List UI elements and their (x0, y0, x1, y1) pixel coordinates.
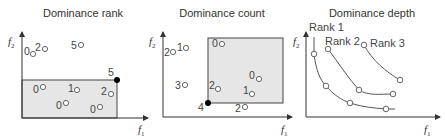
y-axis-label: f2 (8, 35, 15, 50)
svg-text:0: 0 (90, 103, 96, 115)
x-axis-label: f1 (424, 123, 431, 138)
svg-text:0: 0 (24, 45, 30, 57)
front-label: Rank 3 (370, 37, 405, 49)
svg-text:2: 2 (235, 102, 241, 114)
svg-text:5: 5 (71, 39, 77, 51)
front-label: Rank 2 (325, 35, 360, 47)
panel-title: Dominance depth (329, 7, 415, 19)
figure: Dominance rank f2 f1 0 2 5 0 1 2 (0, 0, 445, 139)
svg-text:1: 1 (243, 84, 249, 96)
svg-text:2: 2 (164, 46, 170, 58)
y-axis-label: f2 (293, 35, 300, 50)
solution-point: 1 (177, 41, 189, 53)
panel-title: Dominance rank (43, 7, 124, 19)
solution-point: 3 (175, 79, 188, 91)
svg-text:5: 5 (108, 66, 114, 78)
highlighted-solution: 4 (198, 100, 211, 113)
svg-text:1: 1 (177, 41, 183, 53)
svg-text:0: 0 (56, 99, 62, 111)
x-axis-label: f1 (138, 123, 145, 138)
solution-point: 2 (235, 102, 248, 114)
solution-point: 0 (24, 45, 36, 57)
svg-text:2: 2 (35, 41, 41, 53)
svg-text:1: 1 (68, 82, 74, 94)
svg-text:2: 2 (101, 85, 107, 97)
svg-text:0: 0 (249, 69, 255, 81)
panel-dominance-rank: Dominance rank f2 f1 0 2 5 0 1 2 (8, 7, 148, 138)
svg-text:3: 3 (175, 79, 181, 91)
solution-point: 5 (71, 39, 84, 51)
solution-point: 2 (164, 46, 176, 58)
panel-dominance-count: Dominance count f2 f1 2 1 0 3 2 0 (149, 7, 292, 138)
panel-dominance-depth: Dominance depth f2 f1 Rank 1 Rank 2 (293, 7, 440, 138)
y-axis-label: f2 (149, 35, 156, 50)
svg-text:0: 0 (33, 83, 39, 95)
front-rank-3: Rank 3 (361, 37, 405, 83)
svg-text:0: 0 (212, 37, 218, 49)
solution-point: 2 (35, 41, 48, 53)
front-label: Rank 1 (309, 21, 344, 33)
x-axis-label: f1 (281, 123, 288, 138)
svg-text:2: 2 (209, 79, 215, 91)
panel-title: Dominance count (179, 7, 265, 19)
svg-text:4: 4 (198, 101, 204, 113)
